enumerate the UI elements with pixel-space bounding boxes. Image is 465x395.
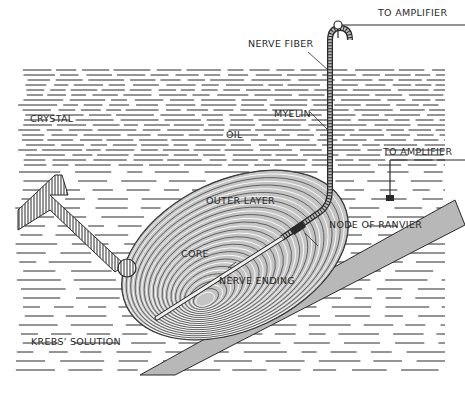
label-oil: OIL <box>226 129 243 140</box>
label-to-amplifier-mid: TO AMPLIFIER <box>382 146 452 157</box>
label-core: CORE <box>181 248 209 259</box>
label-to-amplifier-top: TO AMPLIFIER <box>377 7 447 18</box>
label-node-of-ranvier: NODE OF RANVIER <box>329 219 422 230</box>
label-myelin: MYELIN <box>274 108 311 119</box>
label-nerve-fiber: NERVE FIBER <box>248 38 313 49</box>
label-crystal: CRYSTAL <box>30 113 74 124</box>
label-outer-layer: OUTER LAYER <box>206 195 275 206</box>
label-krebs-solution: KREBS' SOLUTION <box>31 336 121 347</box>
diagram-canvas: TO AMPLIFIER NERVE FIBER CRYSTAL OIL MYE… <box>0 0 465 395</box>
label-nerve-ending: NERVE ENDING <box>219 275 295 286</box>
electrode-top <box>334 21 465 38</box>
oil-layer <box>18 70 445 165</box>
